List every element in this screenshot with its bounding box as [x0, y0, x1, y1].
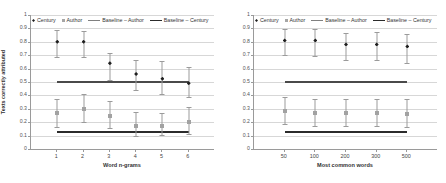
- chart-panel-right: 00.10.20.30.40.50.60.70.80.91 CenturyAut…: [223, 0, 446, 183]
- data-point-author: [344, 111, 348, 115]
- plot-area-left: [30, 15, 214, 149]
- error-bar-cap: [160, 94, 165, 95]
- error-bar-cap: [344, 60, 349, 61]
- y-axis-ticks-left: 00.10.20.30.40.50.60.70.80.91: [0, 15, 30, 149]
- x-tick-label: 2: [81, 154, 84, 159]
- legend-label: Baseline – Author: [102, 18, 144, 23]
- error-bar-cap: [282, 124, 287, 125]
- y-tick-label: 0.9: [226, 26, 250, 31]
- legend-left: CenturyAuthorBaseline – AuthorBaseline –…: [32, 16, 208, 25]
- error-bar-cap: [55, 99, 60, 100]
- error-bar: [407, 34, 408, 62]
- x-tick-mark: [345, 149, 346, 152]
- error-bar: [83, 31, 84, 57]
- line-marker-icon: [311, 20, 323, 21]
- data-point-author: [187, 120, 191, 124]
- error-bar-cap: [55, 57, 60, 58]
- gridline: [254, 69, 437, 70]
- error-bar-cap: [405, 63, 410, 64]
- y-tick-label: 0.8: [3, 39, 27, 44]
- y-tick-label: 0.4: [226, 93, 250, 98]
- data-point-author: [82, 107, 86, 111]
- y-tick-label: 0.1: [226, 133, 250, 138]
- x-tick-mark: [284, 149, 285, 152]
- x-axis-line-left: [30, 149, 214, 150]
- error-bar-cap: [282, 29, 287, 30]
- error-bar-cap: [134, 136, 139, 137]
- legend-item: Baseline – Century: [373, 18, 432, 23]
- figure-root: Texts correctly attributed 00.10.20.30.4…: [0, 0, 446, 183]
- data-point-author: [108, 114, 112, 118]
- data-point-author: [283, 109, 287, 113]
- error-bar-cap: [81, 57, 86, 58]
- x-tick-label: 1: [55, 154, 58, 159]
- data-point-author: [375, 111, 379, 115]
- x-tick-label: 3: [107, 154, 110, 159]
- error-bar-cap: [186, 134, 191, 135]
- y-tick-label: 0.1: [3, 133, 27, 138]
- y-tick-label: 0.5: [226, 79, 250, 84]
- error-bar-cap: [405, 99, 410, 100]
- y-tick-label: 0.2: [3, 120, 27, 125]
- x-tick-mark: [314, 149, 315, 152]
- error-bar-cap: [134, 90, 139, 91]
- x-tick-mark: [56, 149, 57, 152]
- gridline: [31, 28, 214, 29]
- error-bar-cap: [134, 112, 139, 113]
- y-tick-label: 0.6: [226, 66, 250, 71]
- baseline-line: [57, 81, 188, 83]
- legend-label: Century: [37, 18, 56, 23]
- error-bar-cap: [55, 127, 60, 128]
- legend-item: Century: [255, 18, 279, 23]
- error-bar-cap: [374, 126, 379, 127]
- x-tick-mark: [406, 149, 407, 152]
- y-tick-label: 0: [3, 146, 27, 151]
- error-bar-cap: [107, 101, 112, 102]
- error-bar-cap: [405, 127, 410, 128]
- error-bar-cap: [313, 56, 318, 57]
- gridline: [254, 136, 437, 137]
- legend-item: Author: [285, 18, 306, 23]
- x-axis-title-right: Most common words: [253, 163, 437, 169]
- legend-item: Century: [32, 18, 56, 23]
- y-tick-label: 1: [226, 12, 250, 17]
- error-bar-cap: [55, 30, 60, 31]
- error-bar-cap: [81, 94, 86, 95]
- y-tick-label: 0.4: [3, 93, 27, 98]
- error-bar: [346, 33, 347, 60]
- plot-area-right: [253, 15, 437, 149]
- error-bar-cap: [282, 97, 287, 98]
- gridline: [31, 109, 214, 110]
- x-tick-label: 5: [160, 154, 163, 159]
- x-tick-mark: [83, 149, 84, 152]
- baseline-line: [57, 131, 188, 133]
- x-tick-label: 500: [402, 154, 411, 159]
- y-tick-label: 0.9: [3, 26, 27, 31]
- x-tick-label: 4: [134, 154, 137, 159]
- x-tick-mark: [376, 149, 377, 152]
- error-bar: [57, 30, 58, 57]
- gridline: [31, 136, 214, 137]
- y-tick-label: 0.3: [3, 106, 27, 111]
- x-tick-label: 300: [371, 154, 380, 159]
- y-tick-label: 0.2: [226, 120, 250, 125]
- legend-label: Author: [67, 18, 83, 23]
- gridline: [31, 95, 214, 96]
- x-tick-label: 50: [281, 154, 287, 159]
- legend-item: Baseline – Author: [88, 18, 144, 23]
- error-bar-cap: [81, 31, 86, 32]
- error-bar-cap: [107, 128, 112, 129]
- error-bar-cap: [313, 29, 318, 30]
- y-tick-label: 0.8: [226, 39, 250, 44]
- data-point-author: [405, 112, 409, 116]
- y-axis-ticks-right: 00.10.20.30.40.50.60.70.80.91: [223, 15, 253, 149]
- error-bar-cap: [81, 122, 86, 123]
- x-tick-mark: [109, 149, 110, 152]
- legend-item: Author: [62, 18, 83, 23]
- data-point-author: [313, 111, 317, 115]
- error-bar-cap: [344, 33, 349, 34]
- data-point-author: [134, 124, 138, 128]
- legend-label: Baseline – Author: [325, 18, 367, 23]
- y-tick-label: 0: [226, 146, 250, 151]
- error-bar-cap: [160, 61, 165, 62]
